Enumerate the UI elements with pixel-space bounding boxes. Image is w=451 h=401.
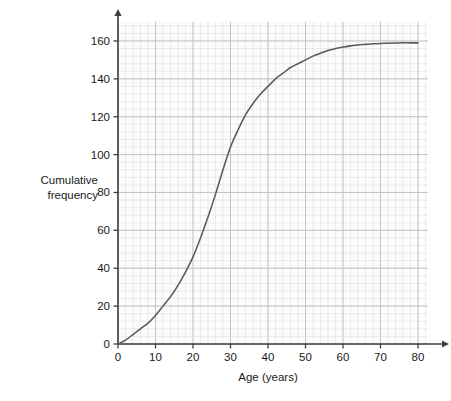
y-axis-arrowhead xyxy=(114,9,121,16)
y-tick-label: 120 xyxy=(91,111,110,123)
x-tick-label: 30 xyxy=(224,351,237,363)
x-tick-label: 60 xyxy=(337,351,350,363)
x-axis-title: Age (years) xyxy=(238,371,298,383)
x-tick-label: 50 xyxy=(299,351,312,363)
y-tick-label: 100 xyxy=(91,149,110,161)
y-tick-label: 160 xyxy=(91,35,110,47)
x-tick-label: 20 xyxy=(187,351,200,363)
y-tick-label: 0 xyxy=(104,338,110,350)
y-tick-label: 60 xyxy=(97,224,110,236)
y-tick-label: 80 xyxy=(97,186,110,198)
y-tick-label: 20 xyxy=(97,300,110,312)
x-tick-label: 0 xyxy=(115,351,121,363)
cumulative-frequency-chart: 01020304050607080 020406080100120140160 … xyxy=(0,0,451,401)
chart-canvas: 01020304050607080 020406080100120140160 … xyxy=(0,0,451,401)
x-axis-arrowhead xyxy=(442,340,449,347)
x-tick-label: 10 xyxy=(149,351,162,363)
y-axis-title-group: Cumulative frequency xyxy=(40,174,98,201)
y-axis-title-line2: frequency xyxy=(47,189,98,201)
plot-background-group xyxy=(118,22,415,344)
y-tick-label: 140 xyxy=(91,73,110,85)
x-tick-label: 80 xyxy=(412,351,425,363)
y-tick-label: 40 xyxy=(97,262,110,274)
x-axis-tick-labels: 01020304050607080 xyxy=(115,351,425,363)
plot-background xyxy=(118,22,415,344)
x-tick-label: 70 xyxy=(374,351,387,363)
x-tick-label: 40 xyxy=(262,351,275,363)
x-axis-title-group: Age (years) xyxy=(238,371,298,383)
y-axis-title-line1: Cumulative xyxy=(40,174,98,186)
